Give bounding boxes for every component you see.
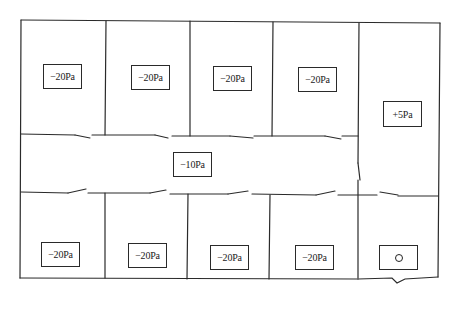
outer-wall-right (438, 23, 440, 277)
door-top-3 (230, 136, 253, 138)
pressure-label-top-3: −20Pa (213, 66, 252, 91)
wall-right-room-upper (358, 23, 359, 163)
pressure-label-bottom-1: −20Pa (41, 242, 80, 267)
pressure-label-corridor: −10Pa (173, 152, 212, 177)
wall-bottom-2-3 (187, 194, 188, 279)
pressure-label-bottom-4: −20Pa (295, 245, 334, 270)
floor-plan (0, 0, 459, 322)
wall-top-1-2 (105, 21, 106, 135)
wall-bottom-3-4 (269, 195, 270, 279)
door-bottom-right-room (380, 192, 398, 195)
door-bottom-1 (68, 189, 86, 193)
pressure-label-bottom-2: −20Pa (128, 243, 167, 268)
door-bottom-2 (150, 190, 166, 193)
pressure-label-bottom-3: −20Pa (210, 245, 249, 270)
pressure-label-top-1: −20Pa (43, 64, 82, 89)
pressure-label-right-lower (379, 245, 418, 270)
outer-wall-left (20, 20, 21, 278)
door-bottom-3 (228, 191, 248, 194)
entrance-door (358, 277, 438, 283)
circle-symbol-icon (395, 254, 403, 262)
pressure-label-top-4: −20Pa (298, 67, 337, 92)
corridor-top-wall (21, 134, 75, 135)
pressure-label-top-2: −20Pa (131, 65, 170, 90)
door-top-4 (325, 136, 341, 139)
door-right-room (358, 163, 360, 180)
outer-wall-bottom-left (20, 278, 358, 279)
corridor-bottom-wall (21, 192, 68, 193)
door-top-1 (75, 135, 90, 138)
pressure-label-right-upper: +5Pa (383, 101, 422, 127)
door-top-2 (155, 135, 168, 138)
outer-wall-top (21, 20, 440, 23)
door-bottom-4 (316, 191, 335, 195)
corridor-bottom-wall (252, 194, 316, 195)
wall-top-3-4 (272, 22, 273, 136)
